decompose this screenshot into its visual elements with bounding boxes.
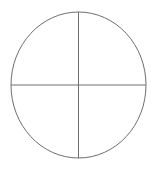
diagram-canvas [0,0,157,170]
circle-quadrant-diagram [0,0,157,170]
